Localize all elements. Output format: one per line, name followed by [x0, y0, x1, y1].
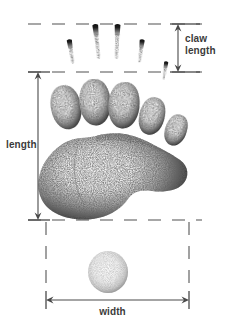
toe-pad-4: [135, 95, 169, 138]
claw-length-label-line2: length: [185, 45, 216, 56]
bear-track-diagram: clawlength length width: [0, 0, 225, 333]
metacarpal-pad: [38, 133, 187, 219]
toe-pad-3: [106, 81, 141, 130]
toe-pad-1: [47, 83, 85, 132]
claw-mark-5: [161, 61, 168, 80]
toe-pad-2: [78, 78, 112, 127]
toe-pad-5: [160, 111, 191, 148]
claw-mark-2: [92, 24, 101, 59]
length-label: length: [6, 139, 37, 151]
heel-pad: [88, 251, 128, 293]
claw-length-label-line1: claw: [185, 33, 207, 44]
claw-mark-4: [137, 39, 145, 63]
width-label: width: [0, 306, 225, 318]
claw-mark-3: [114, 24, 121, 59]
claw-length-label: clawlength: [185, 33, 216, 56]
claw-mark-1: [67, 39, 76, 64]
